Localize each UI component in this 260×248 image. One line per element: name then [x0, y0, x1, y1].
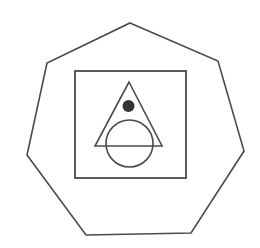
circle-outline: [106, 120, 153, 167]
nested-shapes-diagram: [0, 0, 260, 248]
square-outline: [75, 71, 186, 178]
filled-dot: [123, 100, 135, 112]
heptagon-outline: [27, 23, 244, 235]
